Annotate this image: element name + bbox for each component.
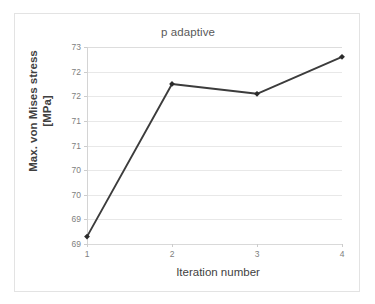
x-axis-tick-mark <box>87 244 88 247</box>
data-point-marker <box>254 91 260 97</box>
y-axis-title-line-1: Max. von Mises stress <box>26 50 40 171</box>
y-axis-tick-label: 73 <box>72 42 81 52</box>
x-axis-tick-mark <box>257 244 258 247</box>
x-axis-tick-label: 2 <box>170 249 175 259</box>
x-axis-tick-mark <box>342 244 343 247</box>
x-axis-tick-label: 3 <box>255 249 260 259</box>
plot-area: 696970707171727273 1234 <box>87 47 342 244</box>
x-axis-title: Iteration number <box>75 266 361 278</box>
y-axis-title: Max. von Mises stress [MPa] <box>23 16 57 206</box>
y-axis-tick-label: 71 <box>72 141 81 151</box>
y-axis-tick-label: 72 <box>72 67 81 77</box>
x-axis-tick-mark <box>172 244 173 247</box>
series-line <box>87 57 342 237</box>
gridline <box>87 244 342 245</box>
chart-title: p adaptive <box>15 26 361 38</box>
y-axis-tick-label: 72 <box>72 91 81 101</box>
chart-container: p adaptive Max. von Mises stress [MPa] I… <box>14 13 360 292</box>
y-axis-tick-label: 70 <box>72 190 81 200</box>
line-series <box>87 47 342 244</box>
y-axis-tick-label: 69 <box>72 214 81 224</box>
data-point-marker <box>339 54 345 60</box>
y-axis-tick-label: 71 <box>72 116 81 126</box>
y-axis-tick-label: 70 <box>72 165 81 175</box>
y-axis-tick-label: 69 <box>72 239 81 249</box>
x-axis-tick-label: 4 <box>340 249 345 259</box>
x-axis-tick-label: 1 <box>85 249 90 259</box>
y-axis-title-line-2: [MPa] <box>40 95 54 126</box>
